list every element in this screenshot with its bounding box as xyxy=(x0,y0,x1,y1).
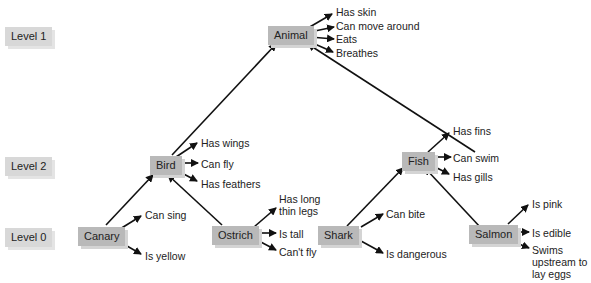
prop-canary-can-sing: Can sing xyxy=(145,209,186,221)
level-2-label: Level 2 xyxy=(5,157,52,176)
level-0-label: Level 0 xyxy=(5,228,52,247)
node-salmon: Salmon xyxy=(469,225,518,244)
node-shark: Shark xyxy=(318,226,359,245)
prop-canary-is-yellow: Is yellow xyxy=(145,250,185,262)
prop-salmon-is-pink: Is pink xyxy=(532,198,562,210)
prop-animal-breathes: Breathes xyxy=(336,47,378,59)
prop-ostrich-cant-fly: Can't fly xyxy=(279,246,317,258)
prop-shark-is-dangerous: Is dangerous xyxy=(386,248,447,260)
prop-fish-can-swim: Can swim xyxy=(453,152,499,164)
prop-salmon-swims-upstream: Swims upstream to lay eggs xyxy=(532,244,588,280)
prop-ostrich-is-tall: Is tall xyxy=(279,228,304,240)
node-bird: Bird xyxy=(150,156,182,175)
prop-fish-has-fins: Has fins xyxy=(453,125,491,137)
prop-salmon-is-edible: Is edible xyxy=(532,227,571,239)
prop-bird-has-feathers: Has feathers xyxy=(201,178,261,190)
node-animal: Animal xyxy=(268,26,314,45)
prop-animal-has-skin: Has skin xyxy=(336,6,376,18)
prop-bird-has-wings: Has wings xyxy=(201,137,249,149)
node-fish: Fish xyxy=(402,152,435,171)
prop-shark-can-bite: Can bite xyxy=(386,208,425,220)
prop-bird-can-fly: Can fly xyxy=(201,158,234,170)
prop-animal-can-move: Can move around xyxy=(336,20,419,32)
node-canary: Canary xyxy=(78,227,125,246)
prop-ostrich-long-legs: Has long thin legs xyxy=(279,193,327,217)
level-1-label: Level 1 xyxy=(5,27,52,46)
prop-fish-has-gills: Has gills xyxy=(453,171,493,183)
prop-animal-eats: Eats xyxy=(336,33,357,45)
node-ostrich: Ostrich xyxy=(212,226,259,245)
